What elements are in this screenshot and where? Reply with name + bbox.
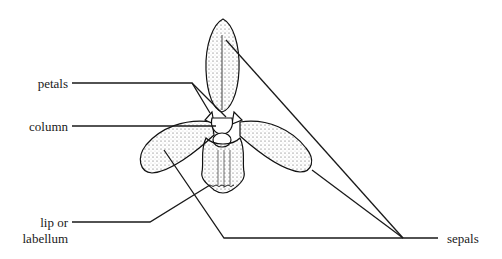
petals-leader (72, 83, 210, 113)
sepals-leader-right (312, 170, 403, 238)
label-sepals: sepals (447, 231, 479, 246)
dorsal-sepal (206, 19, 239, 112)
orchid-diagram (0, 0, 502, 259)
right-sepal (240, 121, 312, 172)
label-lip-line2: labellum (10, 231, 68, 246)
lip-leader (72, 185, 210, 222)
labellum (202, 138, 245, 193)
orchid-illustration (140, 19, 311, 193)
label-lip-line1: lip or (10, 215, 68, 230)
label-column: column (10, 119, 68, 134)
label-petals: petals (20, 76, 68, 91)
